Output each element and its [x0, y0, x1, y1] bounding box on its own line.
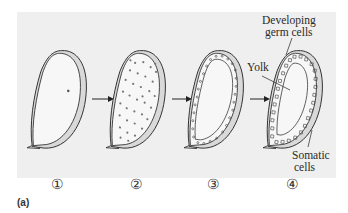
- label-yolk: Yolk: [247, 61, 269, 73]
- stage-number-1: ①: [51, 176, 64, 193]
- label-germ-cells: germ cells: [265, 26, 313, 38]
- arrow-2-to-3: [172, 96, 192, 102]
- stage-number-3: ③: [207, 176, 220, 193]
- label-cells: cells: [294, 161, 315, 173]
- arrow-1-to-2: [92, 96, 114, 102]
- egg-stage-1: [27, 47, 92, 155]
- arrow-3-to-4: [250, 96, 270, 102]
- stage-number-4: ④: [286, 176, 299, 193]
- label-somatic: Somatic: [292, 149, 330, 161]
- egg-stage-2: [106, 47, 171, 155]
- figure-caption: (a): [17, 197, 29, 208]
- label-developing: Developing: [262, 14, 316, 26]
- stage-number-2: ②: [130, 176, 143, 193]
- egg-stage-3: [184, 47, 249, 155]
- egg-stage-4: [263, 47, 328, 155]
